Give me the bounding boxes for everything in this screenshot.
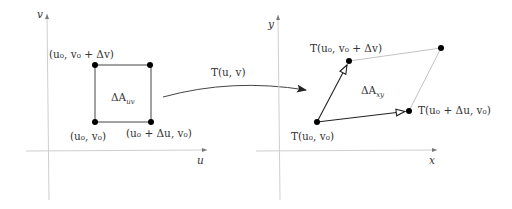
change-of-variables-diagram: u v (u₀, v₀ + Δv) (u₀, v₀) (u₀ + Δu, v₀)… [0, 0, 512, 209]
point-bottom-left [92, 119, 98, 125]
y-axis-label: y [267, 18, 275, 30]
u-axis-label: u [197, 154, 204, 166]
vector-v [317, 65, 347, 122]
region-label-uv: ΔAuv [111, 91, 135, 106]
x-axis-label: x [429, 154, 435, 166]
label-top-left: (u₀, v₀ + Δv) [49, 48, 114, 60]
label-origin: T(u₀, v₀) [291, 130, 334, 142]
point-top-right [147, 62, 153, 68]
v-axis [47, 14, 49, 200]
label-bottom-right: (u₀ + Δu, v₀) [126, 127, 192, 139]
label-v-step: T(u₀, v₀ + Δv) [310, 42, 382, 54]
edge-right [409, 48, 441, 111]
region-label-xy: ΔAxy [361, 84, 385, 99]
label-bottom-left: (u₀, v₀) [70, 130, 106, 142]
label-u-step: T(u₀ + Δu, v₀) [418, 104, 491, 116]
transform-arrow: T(u, v) [163, 66, 306, 97]
point-origin [314, 119, 320, 125]
transform-label: T(u, v) [211, 66, 246, 78]
point-far-corner [438, 45, 444, 51]
point-top-left [92, 62, 98, 68]
u-axis [26, 150, 207, 151]
y-axis [278, 15, 280, 200]
point-bottom-right [148, 119, 154, 125]
point-v-step [346, 58, 352, 64]
v-axis-label: v [37, 8, 43, 20]
transform-curve [163, 85, 306, 97]
point-u-step [406, 108, 412, 114]
x-axis [256, 150, 437, 151]
right-plot: x y T(u₀, v₀ + Δv) T(u₀, v₀) T(u₀ + Δu, … [256, 15, 491, 200]
vector-u [317, 112, 405, 123]
left-plot: u v (u₀, v₀ + Δv) (u₀, v₀) (u₀ + Δu, v₀)… [26, 8, 207, 200]
